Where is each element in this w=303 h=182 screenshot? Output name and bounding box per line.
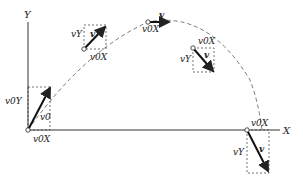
landing-point	[245, 128, 249, 132]
falling-point	[191, 46, 195, 50]
projectile-diagram: X Y v0Y v0 v0X vY v v0X v v0X v0X vY v v…	[0, 0, 303, 182]
falling-v-label: v	[204, 50, 210, 60]
rising-vx-label: v0X	[90, 52, 108, 62]
launch-vy-label: v0Y	[5, 96, 23, 106]
y-axis-label: Y	[24, 9, 32, 20]
landing-vy-label: vY	[233, 147, 245, 157]
rising-vy-label: vY	[71, 29, 83, 39]
launch-velocity-arrow	[28, 88, 50, 130]
launch-v-label: v0	[40, 112, 51, 122]
rising-point	[82, 47, 86, 51]
falling-vy-label: vY	[180, 54, 192, 64]
x-axis-label: X	[282, 125, 291, 136]
landing-vx-label: v0X	[251, 118, 269, 128]
launch-point	[26, 128, 30, 132]
landing-velocity-arrow	[247, 130, 268, 171]
rising-v-label: v	[90, 29, 96, 39]
falling-vx-label: v0X	[198, 36, 216, 46]
trajectory-path	[28, 20, 262, 130]
apex-v-label: v	[159, 10, 165, 20]
launch-vx-label: v0X	[33, 134, 51, 144]
apex-vx-label: v0X	[142, 24, 160, 34]
falling-velocity-arrow	[193, 48, 213, 71]
landing-v-label: v	[259, 144, 265, 154]
